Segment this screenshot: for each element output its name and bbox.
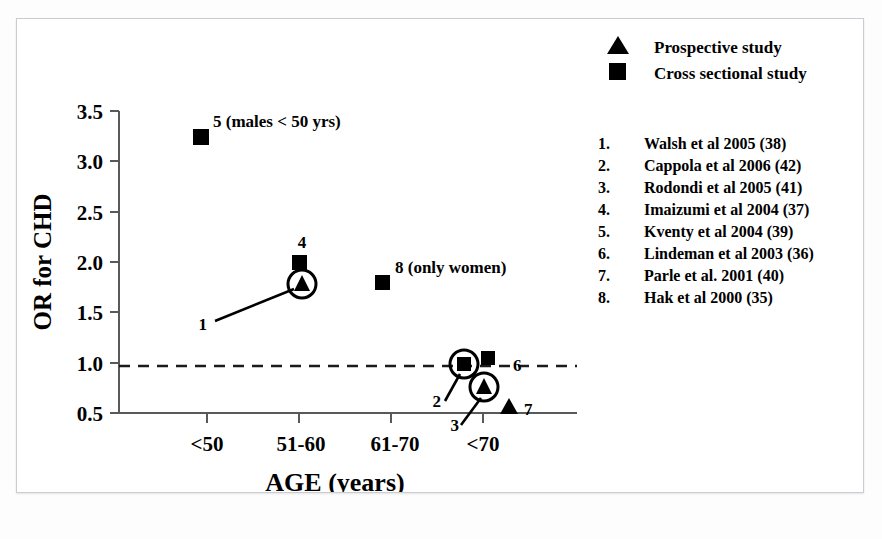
reference-number: 3. xyxy=(598,179,610,196)
x-axis-ticks xyxy=(207,413,483,423)
y-tick-2-0: 2.0 xyxy=(77,251,103,275)
y-axis-tick-labels: 3.5 3.0 2.5 2.0 1.5 1.0 0.5 xyxy=(77,100,103,426)
reference-number: 5. xyxy=(598,223,610,240)
data-point-6[interactable] xyxy=(481,351,495,365)
leader-lines xyxy=(215,289,481,425)
legend-label-cross-sectional: Cross sectional study xyxy=(654,64,807,83)
x-tick-61-70: 61-70 xyxy=(371,432,420,456)
data-point-1[interactable] xyxy=(288,270,316,298)
y-tick-2-5: 2.5 xyxy=(77,201,103,225)
reference-number: 6. xyxy=(598,245,610,262)
reference-item-6[interactable]: 6. Lindeman et al 2003 (36) xyxy=(598,245,814,263)
reference-number: 4. xyxy=(598,201,610,218)
data-point-7[interactable] xyxy=(500,398,518,414)
x-tick-lt70: <70 xyxy=(467,432,500,456)
annotation-point-4: 4 xyxy=(298,233,307,252)
reference-citation: Hak et al 2000 (35) xyxy=(644,289,773,307)
annotation-point-7: 7 xyxy=(524,400,533,419)
annotation-point-2: 2 xyxy=(433,392,442,411)
reference-item-5[interactable]: 5. Kventy et al 2004 (39) xyxy=(598,223,793,241)
annotation-point-1: 1 xyxy=(199,315,208,334)
reference-number: 1. xyxy=(598,135,610,152)
reference-citation: Rodondi et al 2005 (41) xyxy=(644,179,802,197)
reference-item-4[interactable]: 4. Imaizumi et al 2004 (37) xyxy=(598,201,809,219)
y-axis-title: OR for CHD xyxy=(29,193,56,330)
figure-caption xyxy=(55,508,855,534)
square-marker-icon xyxy=(609,63,626,80)
x-axis-title: AGE (years) xyxy=(265,468,404,492)
figure-panel: 3.5 3.0 2.5 2.0 1.5 1.0 0.5 OR for CHD <… xyxy=(16,18,864,493)
reference-citation: Lindeman et al 2003 (36) xyxy=(644,245,814,263)
reference-number: 7. xyxy=(598,267,610,284)
legend-item-prospective[interactable]: Prospective study xyxy=(607,36,782,57)
y-tick-3-0: 3.0 xyxy=(77,150,103,174)
annotation-point-6: 6 xyxy=(513,356,522,375)
annotation-point-8: 8 (only women) xyxy=(395,258,506,277)
scatter-plot: 3.5 3.0 2.5 2.0 1.5 1.0 0.5 OR for CHD <… xyxy=(17,19,863,492)
reference-number: 8. xyxy=(598,289,610,306)
reference-citation: Kventy et al 2004 (39) xyxy=(644,223,793,241)
x-tick-51-60: 51-60 xyxy=(277,432,326,456)
legend-label-prospective: Prospective study xyxy=(654,38,782,57)
reference-citation: Cappola et al 2006 (42) xyxy=(644,157,801,175)
data-point-2[interactable] xyxy=(450,350,478,378)
data-point-5[interactable] xyxy=(193,129,209,145)
x-tick-lt50: <50 xyxy=(191,432,224,456)
annotation-point-3: 3 xyxy=(451,416,460,435)
reference-item-2[interactable]: 2. Cappola et al 2006 (42) xyxy=(598,157,801,175)
y-tick-0-5: 0.5 xyxy=(77,402,103,426)
reference-item-3[interactable]: 3. Rodondi et al 2005 (41) xyxy=(598,179,802,197)
y-axis-ticks xyxy=(110,111,119,413)
triangle-marker-icon xyxy=(607,36,629,54)
reference-item-8[interactable]: 8. Hak et al 2000 (35) xyxy=(598,289,773,307)
y-tick-1-5: 1.5 xyxy=(77,301,103,325)
data-point-8[interactable] xyxy=(375,275,390,290)
reference-item-7[interactable]: 7. Parle et al. 2001 (40) xyxy=(598,267,784,285)
y-tick-3-5: 3.5 xyxy=(77,100,103,124)
reference-list: 1. Walsh et al 2005 (38) 2. Cappola et a… xyxy=(598,135,814,307)
x-axis-tick-labels: <50 51-60 61-70 <70 xyxy=(191,432,500,456)
data-point-3[interactable] xyxy=(470,373,498,401)
data-point-4[interactable] xyxy=(292,255,307,270)
axis-lines xyxy=(119,111,577,413)
legend-item-cross-sectional[interactable]: Cross sectional study xyxy=(609,63,807,83)
reference-citation: Walsh et al 2005 (38) xyxy=(644,135,786,153)
legend: Prospective study Cross sectional study xyxy=(607,36,807,83)
y-tick-1-0: 1.0 xyxy=(77,352,103,376)
reference-number: 2. xyxy=(598,157,610,174)
reference-citation: Imaizumi et al 2004 (37) xyxy=(644,201,809,219)
annotation-point-5: 5 (males < 50 yrs) xyxy=(213,112,341,131)
reference-citation: Parle et al. 2001 (40) xyxy=(644,267,784,285)
reference-item-1[interactable]: 1. Walsh et al 2005 (38) xyxy=(598,135,786,153)
